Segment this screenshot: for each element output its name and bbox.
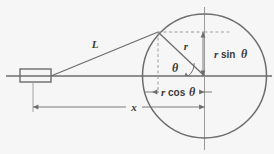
label-r-sin-theta-r: r bbox=[214, 48, 219, 60]
label-r-cos-theta-fn: cos bbox=[168, 87, 186, 98]
geometry-diagram: L r θ x r sin θ r cos θ bbox=[0, 0, 274, 154]
label-r: r bbox=[184, 40, 189, 52]
label-x: x bbox=[130, 101, 137, 113]
label-r-sin-theta-fn: sin bbox=[221, 49, 235, 60]
label-r-sin-theta-angle: θ bbox=[241, 47, 248, 61]
label-theta: θ bbox=[172, 61, 179, 75]
label-r-cos-theta-angle: θ bbox=[189, 85, 196, 99]
label-r-cos-theta-r: r bbox=[161, 86, 166, 98]
diagram-canvas: L r θ x r sin θ r cos θ bbox=[0, 0, 274, 154]
label-L: L bbox=[91, 38, 99, 50]
